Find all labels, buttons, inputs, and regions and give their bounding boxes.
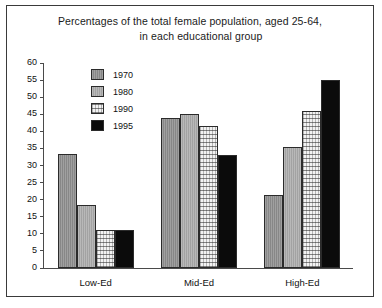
bar-high-ed-1980	[283, 147, 302, 268]
legend-label-1980: 1980	[113, 87, 133, 97]
legend-swatch-1995	[91, 120, 104, 131]
y-tick-label: 35	[27, 142, 37, 152]
legend-label-1970: 1970	[113, 70, 133, 80]
chart-title-line-2: in each educational group	[7, 29, 373, 44]
chart-figure: Percentages of the total female populati…	[6, 5, 374, 297]
x-axis-label-high-ed: High-Ed	[251, 277, 354, 288]
y-tick-label: 15	[27, 211, 37, 221]
bar-low-ed-1990	[96, 230, 115, 268]
bar-high-ed-1990	[302, 111, 321, 268]
bar-group-mid-ed: Mid-Ed	[147, 64, 250, 268]
legend-label-1990: 1990	[113, 104, 133, 114]
plot-area: 605550454035302520151050Low-EdMid-EdHigh…	[43, 64, 353, 269]
legend-item-1990: 1990	[91, 100, 161, 117]
bar-group-bars	[147, 64, 250, 268]
y-tick-label: 20	[27, 194, 37, 204]
bar-low-ed-1970	[58, 154, 77, 268]
legend-item-1980: 1980	[91, 83, 161, 100]
bar-mid-ed-1980	[180, 114, 199, 268]
y-tick-label: 40	[27, 125, 37, 135]
bar-high-ed-1995	[321, 80, 340, 268]
bar-group-high-ed: High-Ed	[251, 64, 354, 268]
chart-title: Percentages of the total female populati…	[7, 14, 373, 44]
y-tick-label: 60	[27, 57, 37, 67]
y-tick-label: 0	[32, 262, 37, 272]
legend-swatch-1990	[91, 103, 104, 114]
y-tick-label: 5	[32, 245, 37, 255]
legend-swatch-1980	[91, 86, 104, 97]
y-tick-label: 45	[27, 108, 37, 118]
bar-high-ed-1970	[264, 195, 283, 268]
x-axis-label-low-ed: Low-Ed	[44, 277, 147, 288]
bar-group-bars	[251, 64, 354, 268]
y-tick-label: 25	[27, 177, 37, 187]
y-tick-label: 10	[27, 228, 37, 238]
bar-mid-ed-1995	[218, 155, 237, 268]
chart-legend: 1970198019901995	[91, 66, 161, 134]
y-tick-label: 50	[27, 91, 37, 101]
y-tick-label: 30	[27, 160, 37, 170]
y-tick-label: 55	[27, 74, 37, 84]
x-axis-label-mid-ed: Mid-Ed	[147, 277, 250, 288]
legend-swatch-1970	[91, 69, 104, 80]
bar-low-ed-1980	[77, 205, 96, 268]
bar-mid-ed-1990	[199, 126, 218, 268]
legend-item-1970: 1970	[91, 66, 161, 83]
legend-item-1995: 1995	[91, 117, 161, 134]
bar-low-ed-1995	[115, 230, 134, 268]
legend-label-1995: 1995	[113, 121, 133, 131]
bar-mid-ed-1970	[161, 118, 180, 268]
chart-title-line-1: Percentages of the total female populati…	[58, 15, 322, 27]
